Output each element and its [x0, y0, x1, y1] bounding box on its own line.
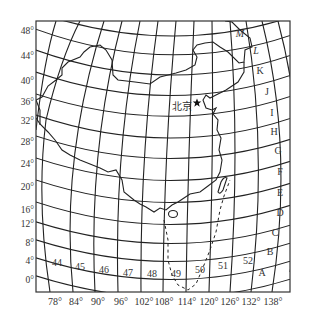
lon-label: 126° — [221, 297, 240, 307]
lon-label: 78° — [48, 297, 62, 307]
row-label: H — [270, 127, 277, 137]
lat-label: 40° — [0, 76, 34, 86]
row-label: D — [276, 208, 283, 218]
zone-label: 47 — [123, 268, 133, 278]
lon-label: 132° — [242, 297, 261, 307]
zone-label: 49 — [171, 269, 181, 279]
row-label: I — [270, 108, 273, 118]
lat-label: 4° — [0, 256, 34, 266]
lat-label: 20° — [0, 182, 34, 192]
row-label: L — [253, 46, 259, 56]
lat-label: 0° — [0, 275, 34, 285]
meridian-102 — [141, 21, 158, 292]
parallel-52 — [30, 10, 300, 36]
lat-label: 28° — [0, 137, 34, 147]
hainan-island — [169, 211, 178, 218]
lat-label: 12° — [0, 219, 34, 229]
lon-label: 114° — [178, 297, 197, 307]
zone-label: 48 — [147, 269, 157, 279]
lat-label: 16° — [0, 205, 34, 215]
meridian-84 — [70, 21, 104, 292]
row-label: G — [274, 146, 281, 156]
lon-label: 108° — [155, 297, 174, 307]
china-outline — [36, 21, 252, 218]
zone-label: 50 — [195, 265, 205, 275]
lat-label: 48° — [0, 26, 34, 36]
lat-label: 32° — [0, 116, 34, 126]
lat-label: 44° — [0, 51, 34, 61]
lon-label: 120° — [200, 297, 219, 307]
star-icon — [193, 99, 202, 107]
parallel-24 — [30, 156, 300, 181]
row-label: C — [272, 228, 279, 238]
meridian-114 — [186, 21, 194, 292]
lat-label: 8° — [0, 238, 34, 248]
row-label: K — [256, 66, 263, 76]
zone-label: 46 — [99, 265, 109, 275]
lat-label: 24° — [0, 159, 34, 169]
zone-label: 44 — [52, 258, 62, 268]
lon-label: 102° — [135, 297, 154, 307]
row-label: B — [267, 247, 274, 257]
meridian-132 — [246, 21, 258, 292]
row-label: E — [277, 188, 283, 198]
map-figure: 北京 48° 44° 40° 36° 32° 28° 24° 20° 16° 1… — [0, 0, 309, 325]
row-label: A — [258, 268, 265, 278]
zone-label: 51 — [218, 261, 228, 271]
lat-label: 36° — [0, 97, 34, 107]
zone-label: 45 — [75, 262, 85, 272]
row-label: M — [236, 29, 244, 39]
row-label: F — [277, 167, 283, 177]
lon-label: 84° — [69, 297, 83, 307]
lon-label: 90° — [91, 297, 105, 307]
zone-label: 52 — [243, 256, 253, 266]
lon-label: 96° — [114, 297, 128, 307]
row-label: J — [265, 87, 269, 97]
lon-label: 138° — [264, 297, 283, 307]
meridian-126 — [230, 21, 235, 292]
grid-lines — [30, 10, 300, 298]
city-label-beijing: 北京 — [172, 102, 192, 112]
meridian-108 — [163, 21, 176, 292]
